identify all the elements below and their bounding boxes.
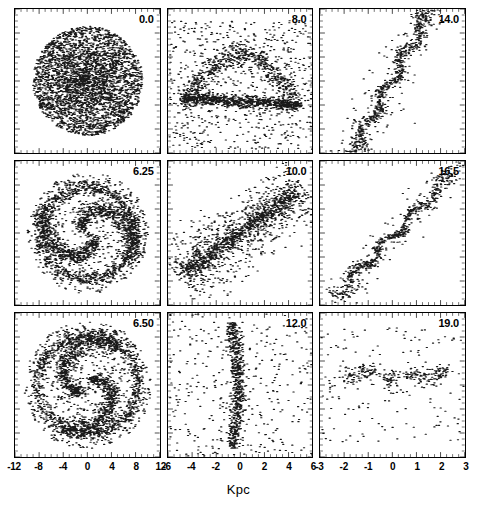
x-tick-label: 4 (286, 461, 291, 472)
panel-time-label-6: 6.50 (133, 318, 154, 329)
x-tick-label: 2 (262, 461, 267, 472)
x-tick-label: -3 (315, 461, 323, 472)
x-tick-label: 0 (237, 461, 242, 472)
panel-time-label-3: 6.25 (133, 166, 154, 177)
x-tick-label: -12 (7, 461, 21, 472)
scatter-canvas-6 (15, 313, 160, 457)
panel-grid: 0.0 8.0 14.0 6.25 10.0 16.5 6.50 (14, 8, 466, 458)
scatter-panel-3: 6.25 (14, 160, 161, 306)
panel-time-label-5: 16.5 (438, 166, 459, 177)
x-tick-label: 8 (134, 461, 139, 472)
panel-time-label-7: 12.0 (286, 318, 307, 329)
x-axis-title: Kpc (0, 482, 477, 497)
scatter-panel-8: 19.0 (319, 312, 466, 458)
figure-root: 0.0 8.0 14.0 6.25 10.0 16.5 6.50 (0, 0, 477, 506)
scatter-panel-7: 12.0 (167, 312, 314, 458)
scatter-canvas-1 (168, 9, 313, 153)
scatter-panel-0: 0.0 (14, 8, 161, 154)
scatter-panel-5: 16.5 (319, 160, 466, 306)
x-axis-ticklabels-column-2: -3-2-10123 (319, 461, 466, 477)
scatter-canvas-2 (320, 9, 465, 153)
x-tick-label: 0 (85, 461, 90, 472)
scatter-canvas-7 (168, 313, 313, 457)
x-tick-label: -6 (163, 461, 171, 472)
panel-time-label-8: 19.0 (438, 318, 459, 329)
x-tick-label: -2 (340, 461, 348, 472)
panel-time-label-1: 8.0 (292, 14, 307, 25)
x-tick-label: -2 (211, 461, 219, 472)
scatter-panel-6: 6.50 (14, 312, 161, 458)
x-tick-label: -1 (364, 461, 372, 472)
x-axis-ticklabels-column-1: -6-4-20246 (167, 461, 314, 477)
scatter-canvas-4 (168, 161, 313, 305)
x-tick-label: -8 (34, 461, 42, 472)
x-tick-label: -4 (187, 461, 195, 472)
scatter-canvas-3 (15, 161, 160, 305)
scatter-canvas-5 (320, 161, 465, 305)
scatter-panel-2: 14.0 (319, 8, 466, 154)
x-tick-label: 0 (390, 461, 395, 472)
x-tick-label: 2 (439, 461, 444, 472)
panel-time-label-0: 0.0 (139, 14, 154, 25)
scatter-panel-1: 8.0 (167, 8, 314, 154)
scatter-panel-4: 10.0 (167, 160, 314, 306)
scatter-canvas-0 (15, 9, 160, 153)
x-tick-label: 3 (463, 461, 468, 472)
scatter-canvas-8 (320, 313, 465, 457)
panel-time-label-2: 14.0 (438, 14, 459, 25)
panel-time-label-4: 10.0 (286, 166, 307, 177)
x-tick-label: 4 (109, 461, 114, 472)
x-tick-label: -4 (59, 461, 67, 472)
x-axis-ticklabels-column-0: -12-8-404812 (14, 461, 161, 477)
x-tick-label: 1 (414, 461, 419, 472)
